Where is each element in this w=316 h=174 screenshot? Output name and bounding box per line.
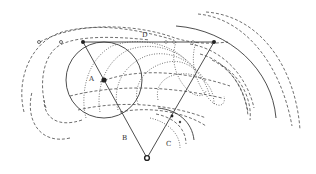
label-B: B bbox=[122, 134, 127, 142]
geometry-diagram: A B C D bbox=[0, 0, 316, 174]
triangle bbox=[83, 42, 214, 158]
right-outer-arcs bbox=[176, 12, 300, 130]
bottom-vertex bbox=[145, 156, 150, 161]
label-C: C bbox=[166, 140, 171, 148]
point-A bbox=[101, 77, 106, 82]
left-dashed-arcs bbox=[22, 27, 174, 139]
small-dot-C bbox=[179, 121, 181, 123]
segment-C bbox=[147, 42, 214, 158]
label-A: A bbox=[88, 75, 95, 83]
segment-A-B bbox=[83, 42, 147, 158]
top-right-vertex bbox=[212, 40, 216, 44]
top-dashed-curve bbox=[40, 27, 228, 43]
point-on-C bbox=[171, 115, 174, 118]
top-left-vertex bbox=[81, 40, 85, 44]
label-D: D bbox=[142, 31, 148, 39]
